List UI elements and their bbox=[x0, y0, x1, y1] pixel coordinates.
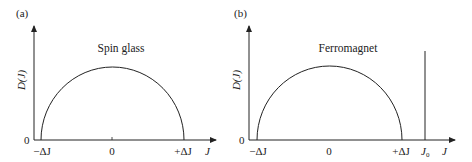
x-axis-label: J bbox=[205, 145, 211, 157]
x-tick-neg-delta: −ΔJ bbox=[33, 145, 51, 157]
panel-title: Ferromagnet bbox=[319, 42, 379, 55]
x-tick-neg-delta: −ΔJ bbox=[249, 145, 267, 157]
x-tick-pos-delta: +ΔJ bbox=[174, 145, 192, 157]
panel-a: (a) D(J) 0 Spin glass −ΔJ 0 +ΔJ J bbox=[15, 7, 216, 157]
panel-tag: (a) bbox=[16, 7, 29, 20]
x-tick-zero: 0 bbox=[326, 145, 332, 157]
semicircle-curve bbox=[257, 66, 402, 140]
panel-b: (b) D(J) 0 Ferromagnet −ΔJ 0 +ΔJ J0 J bbox=[230, 7, 455, 159]
origin-label: 0 bbox=[239, 134, 245, 146]
panel-title: Spin glass bbox=[98, 42, 145, 55]
y-axis-label: D(J) bbox=[230, 70, 243, 91]
origin-label: 0 bbox=[24, 134, 30, 146]
j0-subscript: 0 bbox=[426, 151, 430, 159]
figure: (a) D(J) 0 Spin glass −ΔJ 0 +ΔJ J (b) D(… bbox=[0, 0, 472, 162]
x-tick-pos-delta: +ΔJ bbox=[392, 145, 410, 157]
x-tick-j0: J0 bbox=[421, 145, 430, 159]
semicircle-curve bbox=[41, 67, 184, 140]
y-axis-label: D(J) bbox=[15, 70, 28, 91]
x-tick-zero: 0 bbox=[109, 145, 115, 157]
x-axis-label: J bbox=[442, 145, 448, 157]
panel-tag: (b) bbox=[234, 7, 247, 20]
